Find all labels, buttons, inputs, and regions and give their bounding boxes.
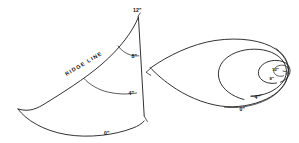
ridge-contour-diagram: 12" 8" 4" 0" RIDGE LINE 0" (0, 0, 299, 143)
label-left-8: 8" (132, 53, 138, 59)
left-vertical-ridge-edge (138, 17, 144, 116)
figure-root: 12" 8" 4" 0" RIDGE LINE 0" (0, 0, 299, 143)
label-right-12: 12" (272, 67, 279, 72)
left-edge-caret-marker (146, 69, 151, 76)
right-plan-view: 0" 4" 8" 12" (151, 39, 291, 112)
right-spiral-center-tick (283, 71, 286, 72)
left-zero-contour-arc (18, 109, 144, 136)
label-right-0: 0" (240, 106, 246, 112)
label-right-4: 4" (255, 94, 261, 100)
label-right-8: 8" (270, 76, 274, 81)
left-base-hook (144, 116, 147, 122)
label-left-0: 0" (104, 130, 110, 136)
right-zero-contour (151, 39, 289, 107)
label-left-4: 4" (129, 90, 135, 96)
left-twelve-inch-tick (138, 13, 140, 16)
ridge-line-label: RIDGE LINE (64, 50, 103, 77)
label-left-12: 12" (133, 7, 142, 13)
right-four-inch-contour (218, 49, 286, 99)
left-elevation-view: 12" 8" 4" 0" RIDGE LINE (18, 7, 151, 137)
